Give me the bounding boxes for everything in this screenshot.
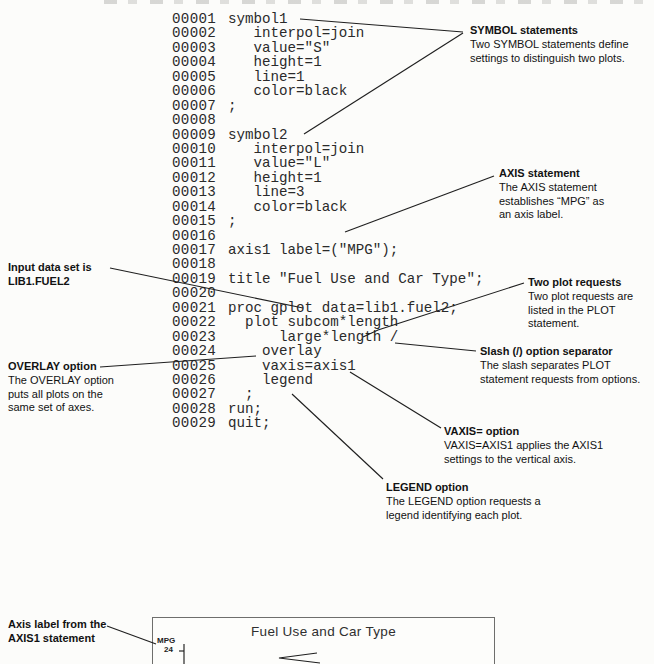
line-number: 00010 — [172, 142, 216, 156]
code-line: 00029 quit; — [172, 416, 483, 430]
code-line: 00014 color=black — [172, 200, 483, 214]
line-number: 00019 — [172, 272, 216, 286]
chart-title: Fuel Use and Car Type — [153, 618, 494, 639]
annotation-body: The LEGEND option requests a legend iden… — [386, 495, 541, 523]
chart-frame: Fuel Use and Car Type — [152, 617, 495, 664]
code-line: 00018 — [172, 257, 483, 271]
line-number: 00023 — [172, 330, 216, 344]
code-listing: 00001 symbol1 00002 interpol=join 00003 … — [172, 12, 483, 431]
line-number: 00024 — [172, 344, 216, 358]
code-line: 00009 symbol2 — [172, 128, 483, 142]
code-line: 00024 overlay — [172, 344, 483, 358]
code-line: 00002 interpol=join — [172, 26, 483, 40]
line-number: 00016 — [172, 229, 216, 243]
code-text: color=black — [228, 84, 347, 98]
code-text: legend — [228, 373, 313, 387]
annotation-body: Two plot requests are listed in the PLOT… — [528, 290, 633, 331]
code-text: quit; — [228, 416, 271, 430]
annotation-title: Slash (/) option separator — [480, 345, 640, 359]
code-text: interpol=join — [228, 142, 364, 156]
code-line: 00006 color=black — [172, 84, 483, 98]
code-text: line=3 — [228, 185, 305, 199]
code-line: 00027 ; — [172, 387, 483, 401]
line-number: 00005 — [172, 70, 216, 84]
line-number: 00009 — [172, 128, 216, 142]
code-text: plot subcom*length — [228, 315, 398, 329]
code-text: line=1 — [228, 70, 305, 84]
annotation-overlay-option: OVERLAY option The OVERLAY option puts a… — [8, 360, 114, 415]
code-line: 00005 line=1 — [172, 70, 483, 84]
annotation-body: The OVERLAY option puts all plots on the… — [8, 374, 114, 415]
code-line: 00019 title "Fuel Use and Car Type"; — [172, 272, 483, 286]
annotation-body: The AXIS statement establishes “MPG” as … — [499, 181, 604, 222]
line-number: 00025 — [172, 359, 216, 373]
annotation-title: Axis label from the AXIS1 statement — [8, 618, 106, 646]
code-line: 00013 line=3 — [172, 185, 483, 199]
cropped-text-remnant — [104, 0, 654, 4]
line-number: 00015 — [172, 214, 216, 228]
code-line: 00015 ; — [172, 214, 483, 228]
annotation-title: Two plot requests — [528, 276, 633, 290]
annotation-input-data-set: Input data set is LIB1.FUEL2 — [8, 261, 92, 289]
code-text: ; — [228, 214, 237, 228]
annotation-title: Input data set is LIB1.FUEL2 — [8, 261, 92, 289]
line-number: 00007 — [172, 99, 216, 113]
line-number: 00028 — [172, 402, 216, 416]
code-text: ; — [228, 99, 237, 113]
code-text: large*length / — [228, 330, 398, 344]
code-line: 00004 height=1 — [172, 55, 483, 69]
manual-page: 00001 symbol1 00002 interpol=join 00003 … — [0, 0, 654, 664]
code-line: 00021 proc gplot data=lib1.fuel2; — [172, 301, 483, 315]
code-text: proc gplot data=lib1.fuel2; — [228, 301, 458, 315]
line-number: 00020 — [172, 286, 216, 300]
code-line: 00011 value="L" — [172, 156, 483, 170]
y-axis-label: MPG — [157, 636, 175, 645]
annotation-slash-separator: Slash (/) option separator The slash sep… — [480, 345, 640, 386]
line-number: 00017 — [172, 243, 216, 257]
line-number: 00022 — [172, 315, 216, 329]
code-text: title "Fuel Use and Car Type"; — [228, 272, 483, 286]
code-text: value="L" — [228, 156, 330, 170]
line-number: 00001 — [172, 12, 216, 26]
y-axis-tick-value: 24 — [164, 645, 173, 654]
annotation-legend-option: LEGEND option The LEGEND option requests… — [386, 481, 541, 522]
code-line: 00028 run; — [172, 402, 483, 416]
annotation-title: OVERLAY option — [8, 360, 114, 374]
code-line: 00010 interpol=join — [172, 142, 483, 156]
annotation-body: VAXIS=AXIS1 applies the AXIS1 settings t… — [444, 439, 603, 467]
code-line: 00012 height=1 — [172, 171, 483, 185]
code-text: vaxis=axis1 — [228, 359, 356, 373]
annotation-title: AXIS statement — [499, 167, 604, 181]
code-line: 00017 axis1 label=("MPG"); — [172, 243, 483, 257]
code-line: 00020 — [172, 286, 483, 300]
line-number: 00018 — [172, 257, 216, 271]
code-text: color=black — [228, 200, 347, 214]
code-line: 00007 ; — [172, 99, 483, 113]
line-number: 00014 — [172, 200, 216, 214]
line-number: 00002 — [172, 26, 216, 40]
code-text: symbol1 — [228, 12, 288, 26]
annotation-axis-statement: AXIS statement The AXIS statement establ… — [499, 167, 604, 222]
code-line: 00022 plot subcom*length — [172, 315, 483, 329]
annotation-body: The slash separates PLOT statement reque… — [480, 359, 640, 387]
code-text: value="S" — [228, 41, 330, 55]
line-number: 00021 — [172, 301, 216, 315]
annotation-symbol-statements: SYMBOL statements Two SYMBOL statements … — [470, 24, 629, 65]
line-number: 00026 — [172, 373, 216, 387]
line-number: 00003 — [172, 41, 216, 55]
code-line: 00003 value="S" — [172, 41, 483, 55]
code-line: 00001 symbol1 — [172, 12, 483, 26]
code-text: ; — [228, 387, 254, 401]
annotation-body: Two SYMBOL statements define settings to… — [470, 38, 629, 66]
code-line: 00023 large*length / — [172, 330, 483, 344]
code-text: height=1 — [228, 55, 322, 69]
line-number: 00004 — [172, 55, 216, 69]
annotation-two-plot-requests: Two plot requests Two plot requests are … — [528, 276, 633, 331]
annotation-vaxis-option: VAXIS= option VAXIS=AXIS1 applies the AX… — [444, 425, 603, 466]
code-text: axis1 label=("MPG"); — [228, 243, 398, 257]
code-line: 00025 vaxis=axis1 — [172, 359, 483, 373]
code-text: height=1 — [228, 171, 322, 185]
code-text: overlay — [228, 344, 322, 358]
code-text: interpol=join — [228, 26, 364, 40]
line-number: 00006 — [172, 84, 216, 98]
